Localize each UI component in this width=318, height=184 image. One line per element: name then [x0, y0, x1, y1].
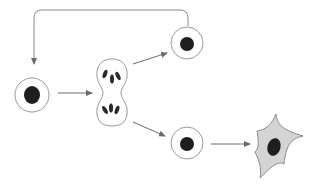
arrow-dividing-to-progenitor: [133, 122, 165, 136]
dividing-cell: [97, 59, 127, 126]
nucleus-icon: [180, 37, 194, 51]
self-renewed-cell: [171, 27, 203, 59]
nucleus-icon: [24, 86, 40, 104]
nucleus-icon: [180, 137, 194, 151]
feedback-arrow: [34, 10, 188, 64]
progenitor-cell: [171, 127, 203, 159]
stem-cell-division-diagram: [0, 0, 318, 184]
arrow-dividing-to-self-renewed: [133, 53, 167, 64]
stem-cell: [15, 78, 49, 112]
differentiated-cell: [255, 114, 303, 178]
